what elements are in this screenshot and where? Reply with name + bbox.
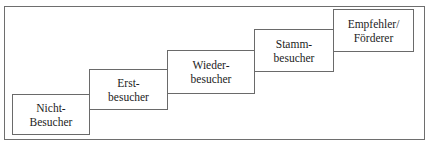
stair-step-nicht-besucher: Nicht- Besucher — [12, 94, 90, 135]
step-label-line-2: besucher — [108, 90, 149, 104]
step-label-line-1: Empfehler/ — [348, 17, 400, 31]
stair-step-erst-besucher: Erst- besucher — [89, 69, 168, 110]
clipped-top-caption — [0, 0, 430, 3]
stair-step-empfehler-foerderer: Empfehler/ Förderer — [333, 9, 414, 52]
step-label-line-2: besucher — [274, 51, 315, 65]
step-label-line-2: besucher — [191, 72, 232, 86]
step-label-line-2: Förderer — [354, 31, 394, 45]
stair-step-wieder-besucher: Wieder- besucher — [167, 50, 255, 94]
step-label-line-2: Besucher — [30, 115, 73, 129]
stair-step-stamm-besucher: Stamm- besucher — [254, 29, 334, 72]
staircase-diagram: Nicht- Besucher Erst- besucher Wieder- b… — [0, 0, 430, 146]
step-label-line-1: Stamm- — [276, 37, 312, 51]
step-label-line-1: Wieder- — [193, 58, 230, 72]
step-label-line-1: Erst- — [117, 76, 139, 90]
step-label-line-1: Nicht- — [36, 101, 65, 115]
